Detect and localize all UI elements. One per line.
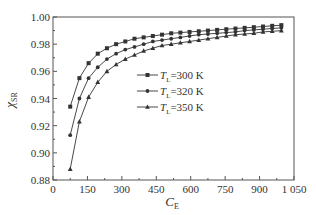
square-marker xyxy=(105,46,109,50)
circle-marker xyxy=(96,65,100,69)
x-tick-label: 1 050 xyxy=(282,183,307,195)
y-tick-label: 0.90 xyxy=(31,147,51,159)
y-tick-label: 0.92 xyxy=(31,120,50,132)
x-tick-label: 150 xyxy=(79,183,96,195)
circle-marker xyxy=(114,52,118,56)
x-tick-label: 750 xyxy=(217,183,234,195)
line-chart: 01503004506007509001 050 0.880.900.920.9… xyxy=(0,0,316,215)
square-marker xyxy=(160,33,164,37)
legend-label: TL=300 K xyxy=(160,69,204,84)
x-tick-label: 300 xyxy=(114,183,131,195)
x-tick-label: 0 xyxy=(50,183,56,195)
square-marker xyxy=(114,42,118,46)
square-marker xyxy=(178,31,182,35)
square-marker xyxy=(146,73,150,77)
y-tick-label: 1.00 xyxy=(31,11,51,23)
circle-marker xyxy=(151,40,155,44)
square-marker xyxy=(77,76,81,80)
y-tick-label: 0.98 xyxy=(31,38,51,50)
y-tick-label: 0.94 xyxy=(31,93,51,105)
series-triangle xyxy=(68,28,284,171)
x-axis-label: CE xyxy=(165,194,179,211)
square-marker xyxy=(206,29,210,33)
triangle-marker xyxy=(68,167,73,171)
circle-marker xyxy=(146,89,150,93)
series-layer xyxy=(68,23,284,171)
legend-item: TL=320 K xyxy=(137,85,204,100)
square-marker xyxy=(87,61,91,65)
circle-marker xyxy=(123,48,127,52)
circle-marker xyxy=(178,35,182,39)
circle-marker xyxy=(87,76,91,80)
square-marker xyxy=(188,30,192,34)
triangle-marker xyxy=(77,119,82,123)
legend-label: TL=350 K xyxy=(160,101,204,116)
circle-marker xyxy=(160,38,164,42)
circle-marker xyxy=(169,37,173,41)
legend: TL=300 KTL=320 KTL=350 K xyxy=(137,69,204,116)
circle-marker xyxy=(133,45,137,49)
chart-container: 01503004506007509001 050 0.880.900.920.9… xyxy=(0,0,316,215)
square-marker xyxy=(123,39,127,43)
square-marker xyxy=(233,27,237,31)
series-circle xyxy=(68,26,283,137)
circle-marker xyxy=(197,33,201,37)
square-marker xyxy=(169,31,173,35)
y-tick-label: 0.96 xyxy=(31,65,51,77)
square-marker xyxy=(96,52,100,56)
circle-marker xyxy=(188,34,192,38)
x-axis: 01503004506007509001 050 xyxy=(50,176,307,195)
square-marker xyxy=(151,34,155,38)
square-marker xyxy=(215,28,219,32)
square-marker xyxy=(68,105,72,109)
square-marker xyxy=(132,37,136,41)
circle-marker xyxy=(215,31,219,35)
series-line xyxy=(70,28,281,135)
x-tick-label: 600 xyxy=(182,183,199,195)
y-tick-label: 0.88 xyxy=(31,174,51,186)
circle-marker xyxy=(105,57,109,61)
circle-marker xyxy=(77,97,81,101)
circle-marker xyxy=(68,133,72,137)
square-marker xyxy=(224,27,228,31)
square-marker xyxy=(197,29,201,33)
x-tick-label: 900 xyxy=(251,183,268,195)
legend-item: TL=300 K xyxy=(137,69,204,84)
legend-label: TL=320 K xyxy=(160,85,204,100)
square-marker xyxy=(142,35,146,39)
triangle-marker xyxy=(105,69,110,73)
legend-item: TL=350 K xyxy=(137,101,204,116)
x-tick-label: 450 xyxy=(148,183,165,195)
circle-marker xyxy=(142,42,146,46)
y-axis-label: χSR xyxy=(2,92,19,110)
triangle-marker xyxy=(114,62,119,66)
circle-marker xyxy=(206,32,210,36)
